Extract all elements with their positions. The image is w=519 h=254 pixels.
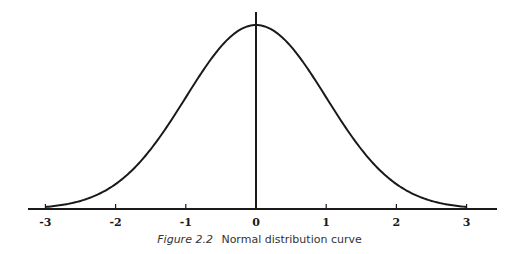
caption-text: Normal distribution curve	[221, 233, 361, 246]
x-tick-label: 0	[252, 216, 260, 229]
normal-distribution-chart: -3-2-10123	[0, 0, 519, 230]
x-axis-ticks: -3-2-10123	[39, 204, 470, 229]
x-tick-label: -2	[109, 216, 121, 229]
x-tick-label: 3	[463, 216, 471, 229]
x-tick-label: 2	[393, 216, 401, 229]
x-tick-label: -1	[180, 216, 192, 229]
figure-label: Figure 2.2	[157, 233, 213, 246]
x-tick-label: 1	[322, 216, 330, 229]
x-tick-label: -3	[39, 216, 51, 229]
figure-caption: Figure 2.2 Normal distribution curve	[0, 233, 519, 246]
